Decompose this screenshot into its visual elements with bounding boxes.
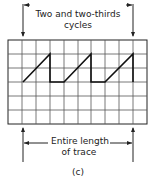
bottom-label-line1: Entire length <box>51 136 109 146</box>
right-arrow-bottom-icon <box>127 141 132 145</box>
up-arrow-left-icon <box>21 127 25 132</box>
figure-caption: (c) <box>72 167 84 177</box>
top-label-line1: Two and two-thirds <box>34 9 120 19</box>
bottom-label-line2: of trace <box>62 147 97 157</box>
graticule-grid <box>8 40 147 124</box>
right-arrow-icon <box>127 3 132 7</box>
oscilloscope-diagram: Two and two-thirds cycles Entire length … <box>0 0 149 179</box>
top-label-line2: cycles <box>64 20 92 30</box>
down-arrow-left-icon <box>21 32 25 37</box>
left-arrow-icon <box>24 3 29 7</box>
down-arrow-right-icon <box>131 32 135 37</box>
left-arrow-bottom-icon <box>24 141 29 145</box>
up-arrow-right-icon <box>131 127 135 132</box>
